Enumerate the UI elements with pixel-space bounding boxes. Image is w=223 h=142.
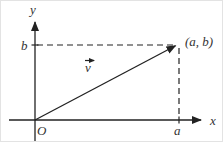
point-coordinates-label: (a, b)	[185, 34, 213, 49]
vector-v-line	[35, 46, 176, 120]
b-tick-label: b	[21, 38, 28, 53]
vector-diagram-canvas: y x O b a (a, b) v	[1, 1, 222, 141]
a-tick-label: a	[174, 123, 181, 138]
y-axis-label: y	[28, 2, 36, 17]
vector-v-label: v	[85, 60, 91, 75]
vector-diagram-figure: y x O b a (a, b) v	[0, 0, 223, 142]
x-axis-label: x	[209, 113, 216, 128]
origin-label: O	[37, 123, 47, 138]
